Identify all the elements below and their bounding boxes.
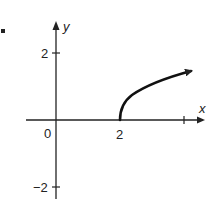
y-axis-label: y (62, 19, 71, 34)
x-axis-label: x (198, 101, 206, 116)
x-tick-label-2: 2 (116, 127, 123, 142)
y-tick-label-neg2: −2 (33, 180, 48, 195)
y-axis (52, 21, 60, 199)
curve-sqrt (120, 71, 191, 120)
x-axis (26, 116, 205, 124)
x-axis-arrow-icon (197, 117, 205, 124)
y-tick-label-2: 2 (41, 46, 48, 61)
graph: y x 0 2 2 −2 (0, 0, 213, 199)
y-axis-arrow-icon (53, 21, 60, 30)
origin-label: 0 (44, 126, 51, 141)
